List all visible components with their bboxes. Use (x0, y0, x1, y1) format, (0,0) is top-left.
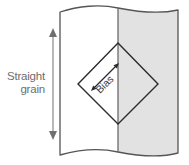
arrow-head-down (49, 131, 57, 140)
straight-grain-label: Straight grain (7, 70, 46, 95)
straight-grain-label-line-2: grain (20, 83, 45, 95)
straight-grain-label-line-1: Straight (7, 70, 46, 82)
diagram-canvas: Bias Straight grain (0, 0, 189, 165)
fabric-grain-bias-diagram: Bias Straight grain (0, 0, 189, 165)
straight-grain-arrow (49, 28, 57, 140)
fabric-piece (60, 0, 180, 165)
fabric-shaded-half (118, 0, 180, 165)
arrow-head-up (49, 28, 57, 37)
